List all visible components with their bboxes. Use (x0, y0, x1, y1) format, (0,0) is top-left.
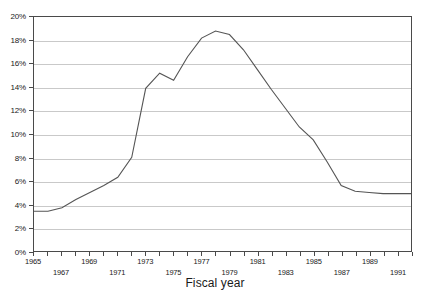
x-tick-label: 1977 (193, 257, 209, 266)
x-tick-mark (103, 252, 104, 256)
x-tick-mark (89, 252, 90, 256)
x-tick-mark (215, 252, 216, 256)
x-tick-mark (342, 252, 343, 256)
x-tick-mark (131, 252, 132, 256)
x-tick-label: 1981 (250, 257, 266, 266)
x-tick-mark (75, 252, 76, 256)
x-tick-mark (201, 252, 202, 256)
x-axis-ticks: 1965196919731977198119851989196719711975… (0, 0, 430, 300)
x-tick-mark (47, 252, 48, 256)
x-tick-mark (356, 252, 357, 256)
x-tick-mark (244, 252, 245, 256)
x-tick-label: 1989 (362, 257, 378, 266)
x-tick-mark (61, 252, 62, 256)
x-tick-mark (117, 252, 118, 256)
line-chart: 0%2%4%6%8%10%12%14%16%18%20% 19651969197… (0, 0, 430, 300)
x-tick-mark (145, 252, 146, 256)
x-tick-label: 1965 (25, 257, 41, 266)
x-tick-mark (258, 252, 259, 256)
x-tick-mark (159, 252, 160, 256)
x-tick-mark (187, 252, 188, 256)
x-tick-mark (384, 252, 385, 256)
x-tick-mark (370, 252, 371, 256)
x-tick-mark (272, 252, 273, 256)
x-tick-mark (300, 252, 301, 256)
x-tick-mark (33, 252, 34, 256)
x-tick-mark (314, 252, 315, 256)
x-tick-label: 1973 (137, 257, 153, 266)
x-tick-mark (328, 252, 329, 256)
x-tick-mark (286, 252, 287, 256)
x-tick-label: 1969 (81, 257, 97, 266)
x-tick-mark (230, 252, 231, 256)
x-tick-mark (173, 252, 174, 256)
x-tick-mark (398, 252, 399, 256)
x-tick-label: 1985 (306, 257, 322, 266)
x-tick-mark (412, 252, 413, 256)
x-axis-title: Fiscal year (0, 276, 430, 290)
